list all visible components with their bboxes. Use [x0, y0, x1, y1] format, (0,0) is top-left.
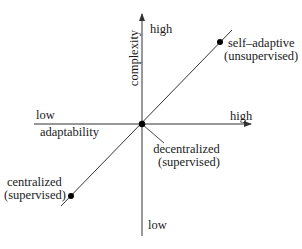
diagonal-trend-line [61, 30, 232, 206]
self-adaptive-label-line2: (unsupervised) [224, 49, 298, 63]
centralized-label: centralized (supervised) [4, 175, 66, 202]
self-adaptive-label: self–adaptive (unsupervised) [224, 36, 298, 63]
decentralized-dot [139, 121, 145, 127]
complexity-adaptability-diagram: high complexity low low adaptability hig… [0, 0, 302, 249]
centralized-dot [68, 193, 74, 199]
decentralized-leader-line [143, 125, 164, 143]
decentralized-label: decentralized (supervised) [153, 142, 223, 169]
self-adaptive-label-line1: self–adaptive [228, 36, 295, 50]
decentralized-label-line1: decentralized [153, 142, 220, 156]
decentralized-label-line2: (supervised) [158, 155, 220, 169]
x-axis-low-label: low [36, 108, 55, 122]
centralized-label-line1: centralized [7, 175, 63, 189]
y-axis-high-label: high [150, 22, 173, 36]
diagram-canvas: high complexity low low adaptability hig… [0, 0, 302, 249]
x-axis-high-label: high [230, 109, 253, 123]
y-axis-title: complexity [127, 29, 141, 86]
x-axis-title: adaptability [40, 125, 100, 139]
self-adaptive-dot [217, 39, 223, 45]
y-axis-low-label: low [148, 218, 167, 232]
centralized-label-line2: (supervised) [4, 188, 66, 202]
